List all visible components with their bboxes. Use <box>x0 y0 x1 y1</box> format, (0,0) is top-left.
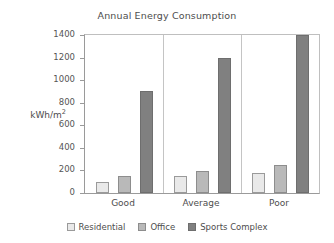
x-axis-label-poor: Poor <box>240 198 318 208</box>
bar-office-poor[interactable] <box>274 165 287 193</box>
y-tick-label: 0 <box>70 187 75 197</box>
y-axis-title: kWh/m2 <box>10 110 66 120</box>
x-axis-label-good: Good <box>84 198 162 208</box>
bar-sports-complex-poor[interactable] <box>296 35 309 193</box>
y-axis-title-superscript: 2 <box>62 108 66 116</box>
legend-swatch-icon <box>67 223 75 231</box>
y-tick-label: 800 <box>59 97 75 107</box>
y-tick-label: 600 <box>59 119 75 129</box>
bar-chart: Annual Energy Consumption kWh/m2 0200400… <box>0 0 334 243</box>
bar-residential-average[interactable] <box>174 176 187 193</box>
bar-office-average[interactable] <box>196 171 209 193</box>
bar-office-good[interactable] <box>118 176 131 193</box>
legend-item-office[interactable]: Office <box>138 222 175 232</box>
bar-sports-complex-average[interactable] <box>218 58 231 193</box>
legend-swatch-icon <box>188 223 196 231</box>
legend-item-residential[interactable]: Residential <box>67 222 126 232</box>
legend-swatch-icon <box>138 223 146 231</box>
legend-label: Sports Complex <box>200 222 267 232</box>
chart-legend: ResidentialOfficeSports Complex <box>0 222 334 232</box>
legend-item-sports-complex[interactable]: Sports Complex <box>188 222 267 232</box>
y-axis-title-text: kWh/m <box>30 110 62 120</box>
plot-area: 0200400600800100012001400 <box>84 34 320 194</box>
bar-residential-good[interactable] <box>96 182 109 193</box>
y-tick-label: 1000 <box>53 74 75 84</box>
legend-label: Residential <box>79 222 126 232</box>
y-tick-label: 200 <box>59 164 75 174</box>
bar-residential-poor[interactable] <box>252 173 265 193</box>
y-tick-mark <box>80 193 85 194</box>
bars-layer <box>85 35 319 193</box>
chart-title: Annual Energy Consumption <box>0 10 334 21</box>
y-tick-label: 1200 <box>53 52 75 62</box>
x-axis-label-average: Average <box>162 198 240 208</box>
bar-sports-complex-good[interactable] <box>140 91 153 193</box>
legend-label: Office <box>150 222 175 232</box>
y-tick-label: 1400 <box>53 29 75 39</box>
y-tick-label: 400 <box>59 142 75 152</box>
